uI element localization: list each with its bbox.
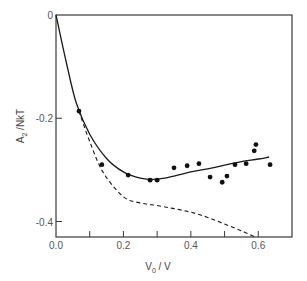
x-tick-label: 0.6 <box>251 240 265 251</box>
x-axis-ticks: 0.00.20.40.6 <box>49 231 266 251</box>
plot-border <box>56 15 292 237</box>
y-tick-label: -0.2 <box>36 113 54 124</box>
x-axis-label: V0 / V <box>145 261 171 274</box>
data-point <box>244 161 249 166</box>
y-axis-ticks: 0-0.2-0.4 <box>36 10 62 228</box>
data-point <box>233 162 238 167</box>
data-point <box>185 163 190 168</box>
data-point <box>252 148 257 153</box>
y-axis-label: A2 /NkT <box>15 109 28 143</box>
data-point <box>197 161 202 166</box>
chart: 0.00.20.40.6 0-0.2-0.4 V0 / V A2 /NkT <box>0 0 307 281</box>
x-tick-label: 0.4 <box>184 240 198 251</box>
data-point <box>268 162 273 167</box>
data-point <box>172 165 177 170</box>
dashed-curve <box>79 111 255 237</box>
data-point <box>254 142 259 147</box>
x-tick-label: 0.2 <box>116 240 130 251</box>
data-points <box>77 109 273 185</box>
plot-frame <box>56 15 292 237</box>
x-tick-label: 0.0 <box>49 240 63 251</box>
data-point <box>225 174 230 179</box>
data-point <box>155 178 160 183</box>
data-point <box>77 109 82 114</box>
curves <box>56 15 269 237</box>
data-point <box>126 173 131 178</box>
y-tick-label: 0 <box>47 10 53 21</box>
solid-curve <box>56 15 269 179</box>
data-point <box>208 175 213 180</box>
y-tick-label: -0.4 <box>36 217 54 228</box>
data-point <box>148 178 153 183</box>
data-point <box>99 162 104 167</box>
data-point <box>220 180 225 185</box>
